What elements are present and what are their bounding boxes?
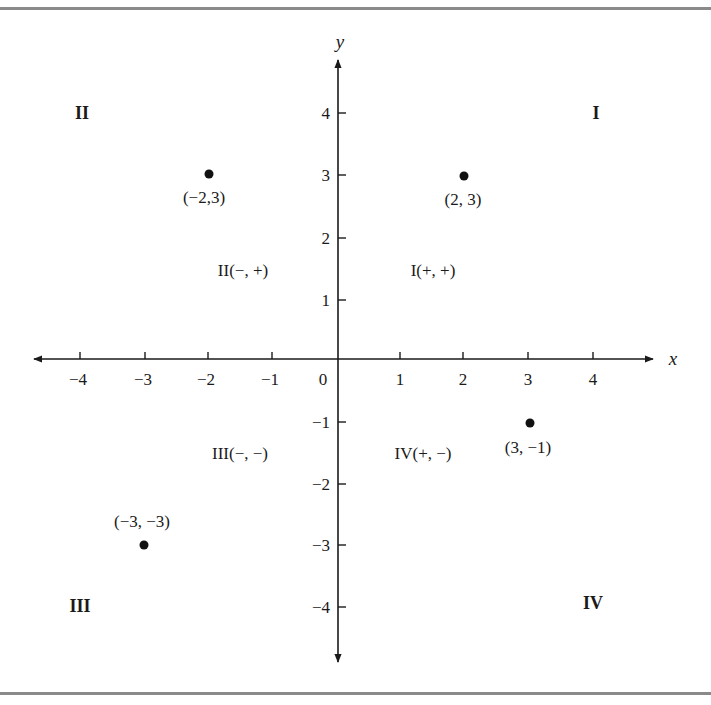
y-ticks — [338, 113, 346, 607]
x-tick-label: −1 — [261, 370, 279, 389]
x-tick-label: −3 — [134, 370, 152, 389]
y-tick-label: −4 — [312, 598, 331, 617]
point-3-neg1: (3, −1) — [505, 419, 551, 458]
y-tick-label: 1 — [322, 291, 331, 310]
point-marker — [526, 419, 535, 428]
x-tick-label: −4 — [69, 370, 88, 389]
point-marker — [460, 172, 469, 181]
point-marker — [140, 541, 149, 550]
quadrant-sign-ii: II(−, +) — [218, 261, 268, 280]
point-label: (2, 3) — [445, 190, 482, 209]
quadrant-sign-iii: III(−, −) — [212, 444, 268, 463]
point-2-3: (2, 3) — [445, 172, 482, 210]
y-tick-label: −2 — [312, 475, 330, 494]
quadrant-sign-i: I(+, +) — [411, 261, 456, 280]
x-tick-label: 1 — [396, 370, 405, 389]
y-tick-label: 4 — [322, 104, 331, 123]
coordinate-plane: y x −4 −3 −2 −1 0 1 2 3 4 4 3 2 1 −1 −2 … — [0, 0, 711, 705]
x-tick-labels: −4 −3 −2 −1 0 1 2 3 4 — [69, 370, 598, 389]
y-tick-label: −1 — [312, 413, 330, 432]
y-tick-labels: 4 3 2 1 −1 −2 −3 −4 — [312, 104, 331, 617]
point-label: (−2,3) — [183, 188, 225, 207]
quadrant-label-i: I — [592, 103, 599, 123]
quadrant-label-ii: II — [75, 103, 89, 123]
origin-label: 0 — [319, 370, 328, 389]
y-axis-label: y — [334, 31, 345, 52]
quadrant-label-iv: IV — [583, 593, 603, 613]
point-neg3-neg3: (−3, −3) — [114, 512, 170, 550]
point-label: (−3, −3) — [114, 512, 170, 531]
x-tick-label: 3 — [524, 370, 533, 389]
y-tick-label: −3 — [312, 536, 330, 555]
point-marker — [205, 170, 214, 179]
y-tick-label: 3 — [322, 166, 331, 185]
y-tick-label: 2 — [322, 229, 331, 248]
quadrant-sign-iv: IV(+, −) — [395, 444, 452, 463]
quadrant-label-iii: III — [69, 596, 90, 616]
x-axis-label: x — [668, 348, 678, 369]
x-tick-label: −2 — [197, 370, 215, 389]
point-neg2-3: (−2,3) — [183, 170, 225, 208]
x-ticks — [80, 352, 593, 359]
x-tick-label: 2 — [459, 370, 468, 389]
point-label: (3, −1) — [505, 438, 551, 457]
x-tick-label: 4 — [589, 370, 598, 389]
